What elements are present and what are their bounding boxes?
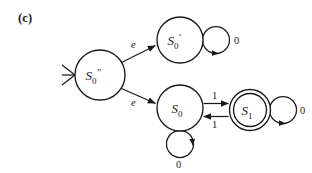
state-s0[interactable]: S0	[157, 85, 203, 131]
self-loop-label-s1: 0	[300, 105, 305, 116]
automaton-diagram: e e 1 1 0 0	[0, 0, 312, 173]
transition-epsilon-lower: e	[122, 89, 156, 109]
self-loop-s0: 0	[167, 131, 194, 171]
transition-label-s0-to-s1: 1	[212, 90, 217, 101]
self-loop-label-s0: 0	[176, 159, 181, 170]
self-loop-s1: 0	[270, 97, 306, 124]
state-s0-double-prime[interactable]: S0″	[75, 50, 125, 100]
transition-epsilon-upper: e	[122, 39, 156, 63]
transition-label-epsilon-upper: e	[131, 39, 136, 50]
figure-container: (c) e e 1	[0, 0, 312, 173]
self-loop-s0prime: 0	[203, 27, 240, 54]
transition-label-epsilon-lower: e	[131, 97, 136, 108]
transition-label-s1-to-s0: 1	[212, 119, 217, 130]
transition-s1-to-s0: 1	[204, 117, 229, 131]
state-s0-prime[interactable]: S0′	[157, 17, 203, 63]
transition-s0-to-s1: 1	[204, 90, 229, 104]
state-s1[interactable]: S1	[230, 90, 271, 131]
state-subscript-s0: 0	[178, 109, 183, 119]
start-marker	[62, 65, 75, 85]
state-subscript-s1: 1	[248, 111, 253, 121]
self-loop-label-s0prime: 0	[234, 35, 239, 46]
